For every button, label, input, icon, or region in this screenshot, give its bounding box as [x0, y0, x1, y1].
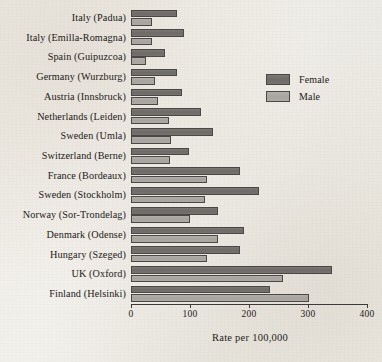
- bar-male: [131, 38, 152, 46]
- bar-female: [131, 246, 240, 254]
- bar-row: [131, 205, 367, 225]
- bar-row: [131, 126, 367, 146]
- bar-female: [131, 69, 177, 77]
- bar-male: [131, 235, 218, 243]
- category-label: Denmark (Odense): [0, 229, 126, 240]
- bar-female: [131, 266, 332, 274]
- legend-label-male: Male: [299, 91, 320, 102]
- legend-swatch-male-icon: [266, 91, 290, 102]
- bar-male: [131, 57, 146, 65]
- category-label: UK (Oxford): [0, 268, 126, 279]
- category-label: Norway (Sor-Trondelag): [0, 209, 126, 220]
- bar-row: [131, 146, 367, 166]
- category-label: Hungary (Szeged): [0, 249, 126, 260]
- bar-row: [131, 67, 367, 87]
- legend-item-male: Male: [266, 88, 329, 105]
- x-axis-tick-label: 200: [242, 309, 257, 319]
- category-label: Germany (Wurzburg): [0, 71, 126, 82]
- bar-row: [131, 87, 367, 107]
- x-axis-tick: [249, 304, 250, 308]
- category-label: Sweden (Stockholm): [0, 189, 126, 200]
- bar-female: [131, 227, 244, 235]
- bar-male: [131, 294, 309, 302]
- bar-row: [131, 245, 367, 265]
- bar-rows: [131, 8, 367, 304]
- legend: Female Male: [266, 71, 329, 105]
- bar-row: [131, 166, 367, 186]
- bar-female: [131, 167, 240, 175]
- bar-female: [131, 286, 270, 294]
- bar-female: [131, 128, 213, 136]
- bar-row: [131, 186, 367, 206]
- legend-swatch-female-icon: [266, 74, 290, 85]
- bar-row: [131, 107, 367, 127]
- bar-male: [131, 176, 207, 184]
- category-label: Sweden (Umla): [0, 130, 126, 141]
- category-label: Spain (Guipuzcoa): [0, 51, 126, 62]
- bar-male: [131, 18, 152, 26]
- bar-male: [131, 97, 158, 105]
- bar-male: [131, 77, 155, 85]
- bar-row: [131, 28, 367, 48]
- category-label: Austria (Innsbruck): [0, 91, 126, 102]
- bar-female: [131, 108, 201, 116]
- x-axis-title: Rate per 100,000: [0, 332, 382, 343]
- bar-male: [131, 275, 283, 283]
- plot-area: [131, 8, 367, 304]
- bar-row: [131, 225, 367, 245]
- bar-female: [131, 148, 189, 156]
- bar-female: [131, 89, 182, 97]
- bar-row: [131, 284, 367, 304]
- category-label: Italy (Emilla-Romagna): [0, 32, 126, 43]
- bar-female: [131, 29, 184, 37]
- legend-label-female: Female: [299, 74, 329, 85]
- x-axis-tick: [367, 304, 368, 308]
- category-label: Switzerland (Berne): [0, 150, 126, 161]
- bar-female: [131, 207, 218, 215]
- bar-female: [131, 49, 165, 57]
- bar-male: [131, 156, 170, 164]
- bar-male: [131, 215, 190, 223]
- bar-male: [131, 255, 207, 263]
- bar-row: [131, 265, 367, 285]
- x-axis-tick: [308, 304, 309, 308]
- x-axis-tick: [131, 304, 132, 308]
- bar-male: [131, 196, 205, 204]
- x-axis-title-text: Rate per 100,000: [94, 332, 288, 343]
- bar-chart-figure: Italy (Padua)Italy (Emilla-Romagna)Spain…: [0, 0, 382, 362]
- category-label: Netherlands (Leiden): [0, 111, 126, 122]
- bar-row: [131, 8, 367, 28]
- x-axis-tick-label: 400: [360, 309, 375, 319]
- bar-male: [131, 117, 169, 125]
- category-label: Italy (Padua): [0, 12, 126, 23]
- x-axis-tick-label: 100: [183, 309, 198, 319]
- x-axis-tick-label: 0: [129, 309, 134, 319]
- bar-female: [131, 187, 259, 195]
- category-label: France (Bordeaux): [0, 170, 126, 181]
- category-axis-labels: Italy (Padua)Italy (Emilla-Romagna)Spain…: [0, 8, 126, 304]
- x-axis-tick: [190, 304, 191, 308]
- bar-female: [131, 10, 177, 18]
- category-label: Finland (Helsinki): [0, 288, 126, 299]
- bar-row: [131, 47, 367, 67]
- x-axis-tick-label: 300: [301, 309, 316, 319]
- bar-male: [131, 136, 171, 144]
- legend-item-female: Female: [266, 71, 329, 88]
